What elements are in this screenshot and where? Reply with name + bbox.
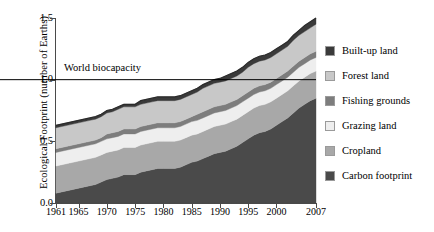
legend-item[interactable]: Cropland [325,138,433,163]
x-tick-mark [192,204,193,208]
stacked-area-svg [56,18,316,203]
y-axis-tick-labels: 1.5 1.0 0.5 0.0 [28,0,53,232]
legend-item-label: Carbon footprint [342,170,412,181]
legend-item-label: Cropland [342,145,381,156]
x-tick-mark [79,204,80,208]
ecological-footprint-chart: Ecological Footprint (number of Earths) … [0,0,434,232]
x-tick-mark [316,204,317,208]
x-tick-mark [248,204,249,208]
legend-item-label: Fishing grounds [342,95,410,106]
legend-item-label: Grazing land [342,120,397,131]
legend-item-label: Built-up land [342,45,398,56]
plot-area [56,18,316,203]
legend-swatch-icon [325,96,335,106]
x-tick-mark [220,204,221,208]
legend-swatch-icon [325,146,335,156]
legend-item[interactable]: Built-up land [325,38,433,63]
legend-swatch-icon [325,71,335,81]
chart-legend: Built-up landForest landFishing groundsG… [325,38,433,188]
legend-item[interactable]: Grazing land [325,113,433,138]
x-tick-mark [135,204,136,208]
x-tick-mark [107,204,108,208]
x-tick-mark [276,204,277,208]
y-tick-label: 1.0 [33,74,53,84]
x-tick-mark [56,204,57,208]
world-biocapacity-label: World biocapacity [64,62,141,73]
legend-item[interactable]: Forest land [325,63,433,88]
legend-swatch-icon [325,46,335,56]
legend-swatch-icon [325,171,335,181]
legend-item-label: Forest land [342,70,389,81]
x-tick-mark [163,204,164,208]
legend-item[interactable]: Carbon footprint [325,163,433,188]
legend-item[interactable]: Fishing grounds [325,88,433,113]
legend-swatch-icon [325,121,335,131]
